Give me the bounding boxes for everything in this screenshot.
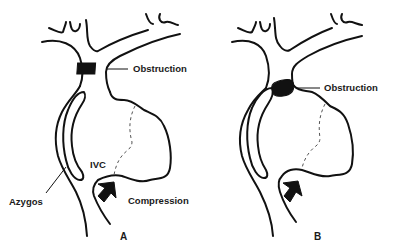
- panel-a-azygos-leader: [46, 167, 66, 193]
- diagram-figure: Obstruction IVC Azygos Compression A: [0, 0, 394, 250]
- panel-a-obstruction-block: [77, 63, 96, 74]
- panel-b: Obstruction B: [232, 14, 378, 242]
- panel-b-azygos-vessel: [240, 88, 273, 236]
- panel-a: Obstruction IVC Azygos Compression A: [9, 14, 189, 242]
- panel-a-label: A: [120, 231, 127, 242]
- panel-b-label: B: [314, 231, 321, 242]
- panel-a-compression-label: Compression: [128, 195, 189, 206]
- panel-a-ivc-label: IVC: [90, 159, 106, 170]
- panel-a-compression-arrow: [98, 182, 116, 202]
- panel-b-obstruction-block: [271, 79, 295, 98]
- panel-b-compression-arrow: [283, 181, 302, 202]
- panel-a-azygos-label: Azygos: [9, 196, 43, 207]
- panel-a-azygos-vessel: [56, 86, 87, 236]
- panel-b-upper-vessels: [232, 14, 362, 88]
- panel-b-obstruction-label: Obstruction: [324, 82, 378, 93]
- panel-a-upper-vessels: [42, 14, 180, 92]
- panel-a-obstruction-label: Obstruction: [133, 63, 187, 74]
